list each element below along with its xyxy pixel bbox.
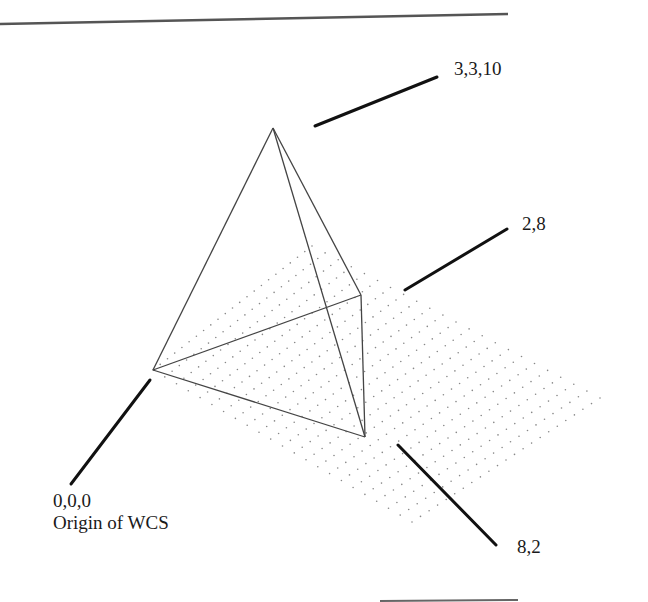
grid-dot [357, 469, 359, 471]
grid-dot [413, 491, 415, 493]
grid-dot [258, 401, 260, 403]
grid-dot [285, 396, 287, 398]
grid-dot [369, 414, 371, 416]
grid-dot [328, 381, 330, 383]
grid-dot [386, 433, 388, 435]
grid-dot [340, 388, 342, 390]
grid-dot [242, 412, 244, 414]
grid-dot [548, 431, 550, 433]
grid-dot [464, 457, 466, 459]
grid-dot [293, 421, 295, 423]
grid-dot [331, 363, 333, 365]
grid-dot [333, 424, 335, 426]
bottom-rule [380, 600, 518, 601]
grid-dot [299, 354, 301, 356]
grid-dot [303, 367, 305, 369]
grid-dot [317, 466, 319, 468]
grid-dot [344, 321, 346, 323]
grid-dot [390, 415, 392, 417]
grid-dot [445, 345, 447, 347]
grid-dot [397, 379, 399, 381]
grid-dot [361, 420, 363, 422]
grid-dot [472, 390, 474, 392]
grid-dot [211, 404, 213, 406]
grid-dot [381, 482, 383, 484]
grid-dot [408, 306, 410, 308]
grid-dot [434, 461, 436, 463]
grid-dot [480, 415, 482, 417]
grid-dot [473, 341, 475, 343]
grid-dot [291, 360, 293, 362]
grid-dot [290, 262, 292, 264]
grid-dot [186, 359, 188, 361]
grid-dot [418, 411, 420, 413]
grid-dot [373, 396, 375, 398]
grid-dot [465, 346, 467, 348]
grid-dot [432, 338, 434, 340]
grid-dot [418, 442, 420, 444]
grid-dot [341, 290, 343, 292]
grid-dot [298, 434, 300, 436]
grid-dot [460, 334, 462, 336]
grid-dot [382, 421, 384, 423]
grid-dot [439, 412, 441, 414]
grid-dot [459, 475, 461, 477]
grid-dot [296, 373, 298, 375]
grid-dot [484, 397, 486, 399]
grid-dot [174, 352, 176, 354]
grid-dot [361, 389, 363, 391]
grid-dot [514, 392, 516, 394]
grid-dot [167, 358, 169, 360]
grid-dot [451, 450, 453, 452]
grid-dot [242, 332, 244, 334]
grid-dot [291, 311, 293, 313]
grid-dot [471, 482, 473, 484]
grid-dot [188, 390, 190, 392]
grid-dot [505, 459, 507, 461]
grid-dot [179, 365, 181, 367]
grid-dot [381, 390, 383, 392]
grid-dot [395, 348, 397, 350]
grid-dot [361, 450, 363, 452]
grid-dot [591, 403, 593, 405]
grid-dot [387, 354, 389, 356]
grid-dot [208, 342, 210, 344]
grid-dot [385, 403, 387, 405]
grid-dot [254, 339, 256, 341]
grid-dot [447, 327, 449, 329]
grid-dot [325, 430, 327, 432]
grid-dot [349, 474, 351, 476]
grid-dot [505, 398, 507, 400]
far-corner-label: 2,8 [522, 213, 546, 235]
grid-dot [284, 366, 286, 368]
grid-dot [451, 419, 453, 421]
grid-dot [445, 499, 447, 501]
grid-dot [556, 395, 558, 397]
grid-dot [569, 402, 571, 404]
grid-dot [325, 399, 327, 401]
grid-dot [200, 348, 202, 350]
grid-dot [377, 408, 379, 410]
grid-dot [552, 382, 554, 384]
grid-dot [560, 377, 562, 379]
grid-dot [488, 471, 490, 473]
grid-dot [403, 294, 405, 296]
grid-dot [480, 476, 482, 478]
grid-dot [447, 437, 449, 439]
grid-dot [468, 328, 470, 330]
grid-dot [316, 325, 318, 327]
grid-dot [377, 470, 379, 472]
grid-dot [382, 292, 384, 294]
grid-dot [337, 467, 339, 469]
grid-dot [313, 423, 315, 425]
grid-dot [416, 301, 418, 303]
grid-dot [352, 487, 354, 489]
grid-dot [522, 448, 524, 450]
grid-dot [288, 280, 290, 282]
grid-dot [413, 368, 415, 370]
grid-dot [238, 399, 240, 401]
grid-dot [478, 353, 480, 355]
grid-dot [273, 292, 275, 294]
grid-dot [510, 410, 512, 412]
grid-dot [483, 366, 485, 368]
